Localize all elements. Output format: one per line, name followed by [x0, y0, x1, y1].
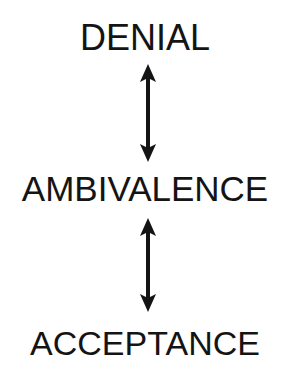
stage-label-ambivalence: AMBIVALENCE — [0, 171, 290, 206]
stages-diagram: DENIAL AMBIVALENCE ACCEPTANCE — [0, 0, 290, 377]
double-arrow-icon — [136, 64, 160, 162]
stage-label-denial: DENIAL — [0, 20, 290, 56]
double-arrow-icon — [136, 218, 160, 312]
stage-label-acceptance: ACCEPTANCE — [0, 326, 290, 360]
